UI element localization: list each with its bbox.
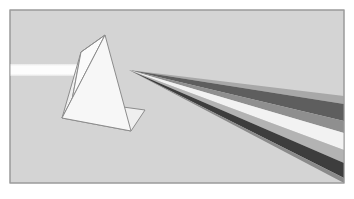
prism-dispersion-figure: A triangular glass prism refracts an inc…: [0, 0, 354, 199]
figure-canvas: [0, 0, 354, 199]
